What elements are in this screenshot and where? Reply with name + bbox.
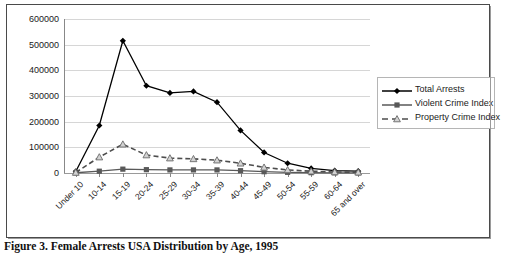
plot-area: 0100000200000300000400000500000600000 Un…: [64, 19, 370, 173]
x-tick-label: 20-24: [134, 180, 156, 202]
x-tick-label: Under 10: [54, 180, 85, 211]
y-tick-label: 500000: [29, 40, 59, 49]
y-tick-label: 300000: [29, 92, 59, 101]
square-marker: [144, 167, 149, 172]
x-tick-label: 40-44: [228, 180, 250, 202]
x-tick-mark: [123, 173, 124, 177]
square-marker: [120, 167, 125, 172]
x-tick-label: 50-54: [275, 180, 297, 202]
square-marker: [191, 167, 196, 172]
diamond-marker: [96, 122, 102, 128]
diamond-marker: [143, 83, 149, 89]
diamond-marker: [394, 88, 400, 94]
legend-item: Property Crime Index: [381, 110, 490, 124]
y-tick-label: 0: [54, 169, 59, 178]
y-tick-label: 400000: [29, 66, 59, 75]
legend-label: Property Crime Index: [413, 112, 500, 122]
legend-label: Total Arrests: [413, 84, 465, 94]
square-marker: [238, 168, 243, 173]
x-tick-label: 30-34: [181, 180, 203, 202]
x-tick-label: 25-29: [158, 180, 180, 202]
x-tick-label: 55-59: [299, 180, 321, 202]
series-line: [76, 41, 358, 172]
x-tick-mark: [146, 173, 147, 177]
x-tick-mark: [241, 173, 242, 177]
diamond-marker: [167, 90, 173, 96]
x-tick-mark: [170, 173, 171, 177]
legend-key: [381, 97, 413, 109]
triangle-marker: [96, 154, 103, 160]
legend-key: [381, 83, 413, 95]
legend-item: Violent Crime Index: [381, 96, 490, 110]
y-tick-label: 600000: [29, 15, 59, 24]
legend-item: Total Arrests: [381, 82, 490, 96]
x-tick-label: 35-39: [205, 180, 227, 202]
legend-key: [381, 111, 413, 123]
chart-legend: Total ArrestsViolent Crime IndexProperty…: [377, 77, 495, 129]
diamond-marker: [190, 88, 196, 94]
diamond-marker: [120, 38, 126, 44]
x-tick-mark: [217, 173, 218, 177]
chart-frame: 0100000200000300000400000500000600000 Un…: [6, 4, 490, 238]
series-layer: [64, 19, 370, 173]
x-tick-label: 10-14: [87, 180, 109, 202]
x-tick-label: 45-49: [252, 180, 274, 202]
x-tick-mark: [193, 173, 194, 177]
figure-caption: Figure 3. Female Arrests USA Distributio…: [4, 240, 514, 253]
square-marker: [97, 169, 102, 174]
square-marker: [167, 167, 172, 172]
diamond-marker: [285, 160, 291, 166]
triangle-marker: [119, 141, 126, 147]
legend-label: Violent Crime Index: [413, 98, 493, 108]
y-tick-label: 200000: [29, 117, 59, 126]
square-marker: [214, 167, 219, 172]
x-tick-label: 15-19: [110, 180, 132, 202]
y-tick-label: 100000: [29, 143, 59, 152]
square-marker: [394, 102, 399, 107]
